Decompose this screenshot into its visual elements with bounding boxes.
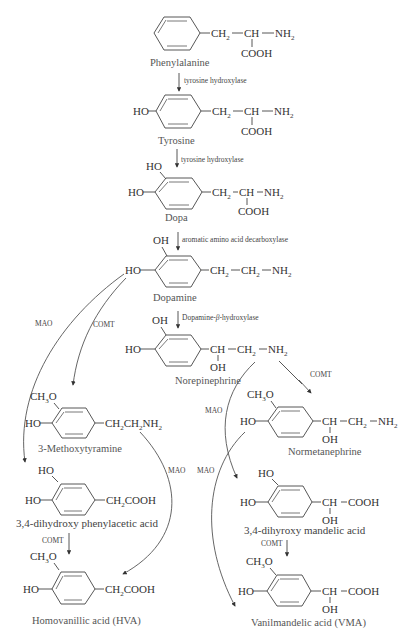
- svg-text:CH: CH: [322, 496, 337, 508]
- svg-text:OH: OH: [322, 433, 338, 445]
- svg-text:NH2: NH2: [268, 343, 288, 358]
- svg-text:NH2: NH2: [274, 105, 294, 120]
- enzyme-label: MAO: [197, 466, 215, 475]
- compound-3-methoxytyramine: CH3O HO CH2CH2NH2 3-Methoxytyramine: [25, 390, 162, 454]
- svg-text:HO: HO: [125, 264, 141, 276]
- svg-text:HO: HO: [238, 585, 254, 597]
- svg-text:CH: CH: [244, 27, 259, 39]
- svg-text:CH3O: CH3O: [30, 390, 57, 405]
- benzene-ring-icon: [52, 572, 95, 604]
- svg-text:NH2: NH2: [378, 415, 398, 430]
- compound-name: Tyrosine: [158, 135, 195, 146]
- compound-vma: CH3O HO CH COOH OH Vanilmandelic acid (V…: [238, 555, 379, 629]
- enzyme-label: MAO: [35, 319, 53, 328]
- compound-name: Norepinephrine: [175, 375, 241, 386]
- svg-text:CH2: CH2: [212, 105, 231, 120]
- compound-hva: CH3O HO CH2COOH Homovanillic acid (HVA): [23, 550, 155, 627]
- benzene-ring-icon: [268, 407, 313, 437]
- svg-text:CH2CH2NH2: CH2CH2NH2: [105, 417, 162, 432]
- svg-text:COOH: COOH: [241, 47, 272, 59]
- compound-phenylalanine: CH2 CH NH2 COOH Phenylalanine: [150, 17, 295, 68]
- arrow-icon: [212, 432, 245, 606]
- benzene-ring-icon: [268, 486, 312, 517]
- compound-name: 3,4-dihyroxy mandelic acid: [244, 524, 366, 536]
- svg-text:HO: HO: [258, 467, 274, 479]
- compound-norepinephrine: OH HO CH CH2 NH2 OH Norepinephrine: [125, 314, 288, 386]
- svg-text:HO: HO: [240, 415, 256, 427]
- svg-text:CH3O: CH3O: [247, 388, 274, 403]
- benzene-ring-icon: [267, 575, 311, 606]
- svg-text:COOH: COOH: [348, 496, 379, 508]
- svg-text:CH3O: CH3O: [30, 550, 57, 565]
- enzyme-label: COMT: [310, 370, 332, 379]
- svg-text:CH2: CH2: [241, 264, 260, 279]
- svg-text:HO: HO: [125, 343, 141, 355]
- svg-text:CH2: CH2: [212, 186, 231, 201]
- svg-text:CH2COOH: CH2COOH: [105, 583, 155, 598]
- benzene-ring-icon: [155, 256, 201, 287]
- svg-text:CH: CH: [322, 585, 337, 597]
- enzyme-label: tyrosine hydroxylase: [181, 155, 244, 164]
- compound-tyrosine: HO CH2 CH NH2 COOH Tyrosine: [133, 95, 294, 146]
- enzyme-label: Dopamine-β-hydroxylase: [182, 313, 259, 322]
- compound-name: Homovanillic acid (HVA): [32, 615, 141, 627]
- svg-text:COOH: COOH: [238, 205, 269, 217]
- svg-text:CH2: CH2: [210, 264, 229, 279]
- compound-dopac: HO HO CH2COOH 3,4-dihydroxy phenylacetic…: [16, 464, 159, 529]
- svg-text:HO: HO: [25, 494, 41, 506]
- svg-text:OH: OH: [153, 234, 169, 246]
- enzyme-label: aromatic amino acid decarboxylase: [182, 235, 289, 244]
- compound-name: 3-Methoxytyramine: [38, 443, 122, 454]
- compound-name: Vanilmandelic acid (VMA): [251, 617, 366, 629]
- pathway-diagram: CH2 CH NH2 COOH Phenylalanine tyrosine h…: [0, 0, 409, 639]
- compound-name: Normetanephrine: [288, 446, 362, 457]
- svg-text:CH: CH: [244, 105, 259, 117]
- compound-name: Dopamine: [153, 292, 197, 303]
- svg-text:HO: HO: [128, 186, 144, 198]
- svg-text:CH3O: CH3O: [246, 555, 273, 570]
- svg-text:HO: HO: [25, 417, 41, 429]
- svg-text:HO: HO: [38, 464, 54, 476]
- svg-text:HO: HO: [146, 160, 162, 172]
- benzene-ring-icon: [52, 408, 95, 438]
- enzyme-label: MAO: [168, 466, 186, 475]
- benzene-ring-icon: [52, 484, 95, 515]
- svg-text:NH2: NH2: [275, 27, 295, 42]
- compound-dhma: HO HO CH COOH OH 3,4-dihyroxy mandelic a…: [240, 467, 379, 536]
- svg-text:HO: HO: [23, 583, 39, 595]
- compound-dopa: HO HO CH2 CH NH2 COOH Dopa: [128, 160, 284, 223]
- svg-text:COOH: COOH: [348, 585, 379, 597]
- svg-text:NH2: NH2: [272, 264, 292, 279]
- svg-text:CH2COOH: CH2COOH: [106, 494, 156, 509]
- svg-text:OH: OH: [322, 603, 338, 615]
- svg-text:NH2: NH2: [264, 186, 284, 201]
- svg-text:OH: OH: [152, 314, 168, 326]
- svg-text:HO: HO: [133, 105, 149, 117]
- compound-name: 3,4-dihydroxy phenylacetic acid: [16, 517, 159, 529]
- arrow-line: [279, 361, 302, 384]
- arrow-icon: [299, 380, 311, 393]
- svg-text:COOH: COOH: [241, 125, 272, 137]
- enzyme-label: COMT: [93, 320, 115, 329]
- compound-dopamine: OH HO CH2 CH2 NH2 Dopamine: [125, 234, 292, 303]
- svg-text:CH: CH: [239, 186, 254, 198]
- compound-name: Phenylalanine: [150, 57, 210, 68]
- enzyme-label: MAO: [205, 406, 223, 415]
- svg-text:HO: HO: [240, 496, 256, 508]
- svg-text:OH: OH: [210, 361, 226, 373]
- svg-text:CH: CH: [322, 415, 337, 427]
- enzyme-label: COMT: [261, 539, 283, 548]
- benzene-ring-icon: [155, 335, 201, 366]
- benzene-ring-icon: [155, 178, 202, 209]
- benzene-ring-icon: [154, 17, 200, 50]
- svg-text:CH2: CH2: [348, 415, 367, 430]
- svg-text:CH2: CH2: [237, 343, 256, 358]
- enzyme-label: COMT: [42, 536, 64, 545]
- compound-normetanephrine: CH3O HO CH CH2 NH2 OH Normetanephrine: [240, 388, 398, 457]
- compound-name: Dopa: [165, 212, 188, 223]
- svg-text:CH: CH: [210, 343, 225, 355]
- benzene-ring-icon: [156, 95, 201, 128]
- svg-text:CH2: CH2: [211, 27, 230, 42]
- enzyme-label: tyrosine hydroxylase: [184, 76, 247, 85]
